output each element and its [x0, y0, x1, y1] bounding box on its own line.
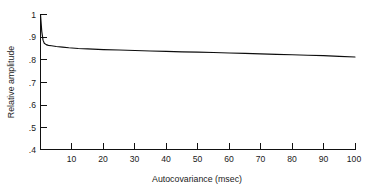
x-tick-label-60: 60 [224, 154, 234, 164]
x-tick-label-10: 10 [67, 154, 77, 164]
x-tick-label-80: 80 [287, 154, 297, 164]
y-tick-label-0.7: .7 [29, 78, 36, 88]
y-tick-label-0.4: .4 [29, 145, 36, 155]
y-tick-label-0.5: .5 [29, 123, 36, 133]
y-axis-title: Relative amplitude [6, 46, 16, 118]
x-tick-label-40: 40 [161, 154, 171, 164]
x-tick-label-50: 50 [193, 154, 203, 164]
x-tick-label-90: 90 [319, 154, 329, 164]
x-tick-label-100: 100 [347, 154, 362, 164]
x-axis-title: Autocovariance (msec) [152, 174, 242, 184]
x-tick-label-20: 20 [98, 154, 108, 164]
y-tick-label-0.6: .6 [29, 100, 36, 110]
y-tick-label-1: 1 [31, 10, 36, 20]
x-tick-label-30: 30 [130, 154, 140, 164]
plot-background [0, 0, 366, 193]
x-tick-label-70: 70 [256, 154, 266, 164]
y-axis-tick-labels: 1 .9 .8 .7 .6 .5 .4 [29, 10, 36, 155]
y-tick-label-0.8: .8 [29, 55, 36, 65]
y-tick-label-0.9: .9 [29, 32, 36, 42]
autocovariance-line-chart: 1 .9 .8 .7 .6 .5 .4 10 20 30 40 [0, 0, 366, 193]
chart-figure: 1 .9 .8 .7 .6 .5 .4 10 20 30 40 [0, 0, 366, 193]
